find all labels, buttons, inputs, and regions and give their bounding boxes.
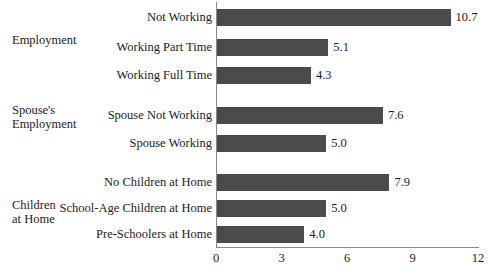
x-axis-tick: 12 (472, 249, 485, 267)
bar-value-label: 5.0 (331, 134, 347, 153)
bar-row: Not Working10.7 (0, 8, 489, 27)
bar-category-label: Working Full Time (116, 66, 212, 85)
bar-row: Spouse Working5.0 (0, 134, 489, 153)
bar-row: No Children at Home7.9 (0, 173, 489, 192)
bar (217, 9, 451, 26)
group-label: Spouse'sEmployment (12, 103, 108, 131)
bar-category-label: Not Working (147, 8, 212, 27)
x-axis-tick-labels: 036912 (0, 249, 489, 267)
group-label-line: Spouse's (12, 103, 108, 117)
bar-category-label: Spouse Not Working (108, 106, 212, 125)
x-axis-tick: 6 (344, 249, 350, 267)
bar (217, 174, 389, 191)
group-label-line: Children (12, 198, 108, 212)
horizontal-bar-chart: Not Working10.7Working Part Time5.1Worki… (0, 0, 489, 276)
group-label-line: Employment (12, 33, 108, 47)
group-label: Childrenat Home (12, 198, 108, 226)
bar-row: Working Full Time4.3 (0, 66, 489, 85)
bar-category-label: Working Part Time (116, 38, 212, 57)
bar-value-label: 5.0 (331, 199, 347, 218)
bar-category-label: Pre-Schoolers at Home (96, 225, 212, 244)
group-label: Employment (12, 33, 108, 47)
bar (217, 200, 326, 217)
bar-category-label: Spouse Working (130, 134, 212, 153)
group-label-line: at Home (12, 212, 108, 226)
bar-category-label: No Children at Home (104, 173, 212, 192)
bar (217, 107, 383, 124)
bar-row: Pre-Schoolers at Home4.0 (0, 225, 489, 244)
bar-value-label: 4.0 (309, 225, 325, 244)
x-axis-tick: 9 (409, 249, 415, 267)
bar-value-label: 7.9 (394, 173, 410, 192)
bar-value-label: 10.7 (456, 8, 478, 27)
x-axis-tick: 0 (213, 249, 219, 267)
bar (217, 67, 311, 84)
bar (217, 226, 304, 243)
bar-value-label: 7.6 (388, 106, 404, 125)
bar-value-label: 4.3 (316, 66, 332, 85)
x-axis-tick: 3 (278, 249, 284, 267)
bar-value-label: 5.1 (333, 38, 349, 57)
bar (217, 135, 326, 152)
group-label-line: Employment (12, 117, 108, 131)
figure-caption (28, 268, 448, 276)
bar (217, 39, 328, 56)
